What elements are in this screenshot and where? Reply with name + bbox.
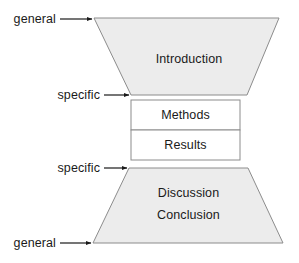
discussion-conclusion-trapezoid xyxy=(93,168,283,243)
hourglass-diagram: general specific specific general Introd… xyxy=(0,0,299,263)
annotation-label-specific-bottom: specific xyxy=(0,161,100,175)
annotation-label-general-top: general xyxy=(0,12,56,26)
section-label-results: Results xyxy=(131,138,240,152)
diagram-canvas xyxy=(0,0,299,263)
annotation-label-general-bottom: general xyxy=(0,236,56,250)
section-label-conclusion: Conclusion xyxy=(129,208,248,222)
section-label-introduction: Introduction xyxy=(131,52,247,66)
section-label-methods: Methods xyxy=(131,108,240,122)
section-label-discussion: Discussion xyxy=(129,186,248,200)
annotation-label-specific-top: specific xyxy=(0,88,100,102)
